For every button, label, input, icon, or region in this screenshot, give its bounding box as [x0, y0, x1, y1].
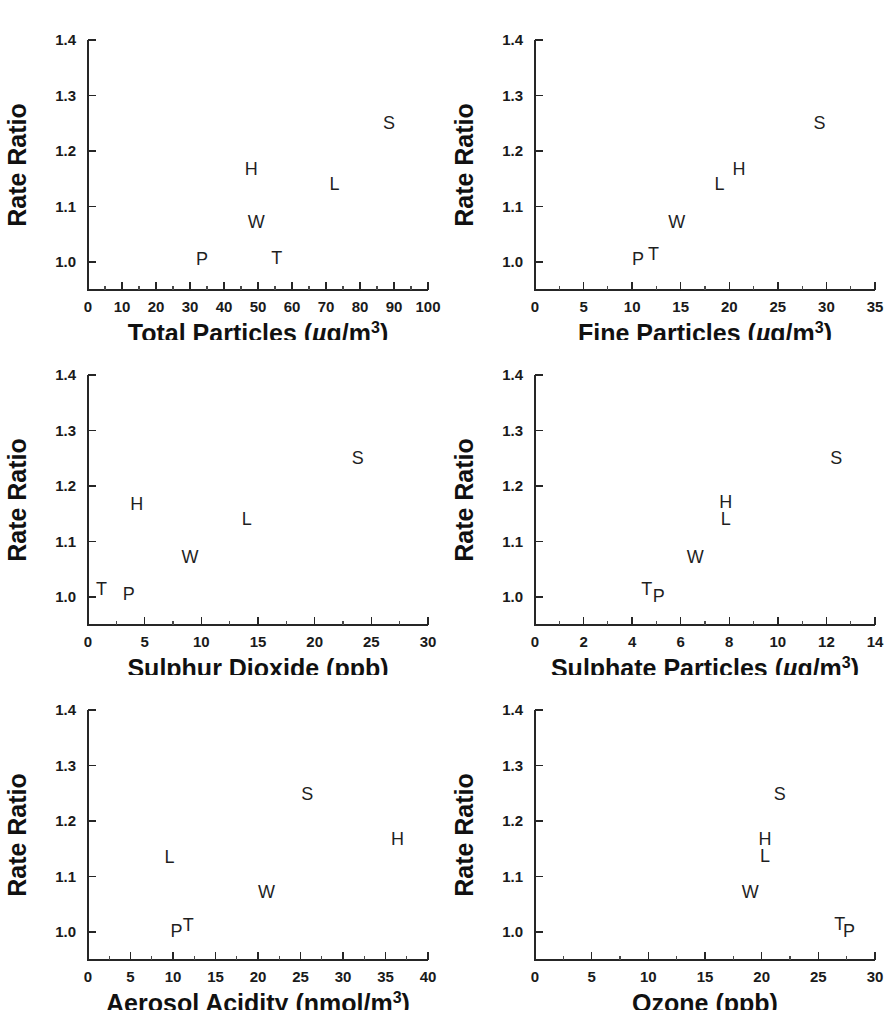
data-point-marker-H: H — [759, 829, 772, 849]
x-tick-label: 15 — [697, 968, 714, 985]
x-tick-label: 40 — [216, 298, 233, 315]
x-tick-label: 0 — [531, 298, 539, 315]
x-tick-label: 20 — [250, 968, 267, 985]
x-axis-title: Ozone (ppb) — [632, 989, 778, 1010]
x-tick-label: 100 — [415, 298, 440, 315]
x-tick-label: 60 — [284, 298, 301, 315]
y-tick-label: 1.1 — [502, 198, 523, 215]
y-tick-label: 1.1 — [55, 533, 76, 550]
scatter-panel-3: 0510152025301.01.11.21.31.4TPWHLSRate Ra… — [0, 335, 446, 675]
data-point-marker-T: T — [271, 248, 282, 268]
x-tick-label: 0 — [531, 968, 539, 985]
x-tick-label: 50 — [250, 298, 267, 315]
data-point-marker-W: W — [248, 212, 265, 232]
axis-spine — [88, 40, 428, 290]
scatter-panel-5: 05101520253035401.01.11.21.31.4PTLWSHRat… — [0, 670, 446, 1010]
data-point-marker-H: H — [719, 492, 732, 512]
y-tick-label: 1.0 — [502, 253, 523, 270]
data-point-marker-L: L — [165, 847, 175, 867]
data-point-marker-L: L — [715, 174, 725, 194]
x-tick-label: 14 — [867, 633, 884, 650]
x-tick-label: 0 — [84, 968, 92, 985]
data-point-marker-S: S — [830, 448, 842, 468]
y-tick-label: 1.2 — [502, 477, 523, 494]
x-tick-label: 15 — [250, 633, 267, 650]
x-tick-label: 0 — [531, 633, 539, 650]
x-tick-label: 35 — [377, 968, 394, 985]
x-tick-label: 80 — [352, 298, 369, 315]
y-tick-label: 1.0 — [55, 588, 76, 605]
x-tick-label: 10 — [165, 968, 182, 985]
y-tick-label: 1.4 — [502, 31, 524, 48]
data-point-marker-S: S — [774, 784, 786, 804]
y-axis-title: Rate Ratio — [3, 103, 31, 227]
x-tick-label: 4 — [628, 633, 637, 650]
y-tick-label: 1.0 — [502, 588, 523, 605]
scatter-panel-1: 01020304050607080901001.01.11.21.31.4PTW… — [0, 0, 446, 340]
data-point-marker-T: T — [648, 244, 659, 264]
data-point-marker-P: P — [123, 584, 135, 604]
y-axis-title: Rate Ratio — [450, 103, 478, 227]
data-point-marker-S: S — [301, 784, 313, 804]
data-point-marker-H: H — [391, 829, 404, 849]
data-point-marker-H: H — [130, 494, 143, 514]
data-point-marker-T: T — [96, 579, 107, 599]
y-tick-label: 1.1 — [502, 868, 523, 885]
y-tick-label: 1.2 — [55, 477, 76, 494]
data-point-marker-W: W — [687, 547, 704, 567]
y-tick-label: 1.1 — [55, 868, 76, 885]
x-tick-label: 30 — [867, 968, 884, 985]
data-point-marker-T: T — [641, 579, 652, 599]
x-tick-label: 15 — [207, 968, 224, 985]
x-axis-title: Aerosol Acidity (nmol/m3) — [106, 989, 410, 1010]
x-tick-label: 10 — [624, 298, 641, 315]
y-tick-label: 1.2 — [55, 812, 76, 829]
x-tick-label: 20 — [148, 298, 165, 315]
x-tick-label: 25 — [363, 633, 380, 650]
x-tick-label: 30 — [420, 633, 437, 650]
x-tick-label: 5 — [587, 968, 595, 985]
x-tick-label: 0 — [84, 298, 92, 315]
x-tick-label: 6 — [677, 633, 685, 650]
x-tick-label: 30 — [818, 298, 835, 315]
data-point-marker-P: P — [196, 249, 208, 269]
x-tick-label: 20 — [306, 633, 323, 650]
axis-spine — [535, 375, 875, 625]
data-point-marker-S: S — [814, 113, 826, 133]
x-tick-label: 25 — [770, 298, 787, 315]
y-tick-label: 1.3 — [502, 422, 523, 439]
x-tick-label: 30 — [335, 968, 352, 985]
axis-spine — [88, 710, 428, 960]
y-tick-label: 1.0 — [502, 923, 523, 940]
x-tick-label: 10 — [640, 968, 657, 985]
x-tick-label: 25 — [292, 968, 309, 985]
data-point-marker-L: L — [721, 509, 731, 529]
x-tick-label: 12 — [818, 633, 835, 650]
y-tick-label: 1.3 — [55, 422, 76, 439]
x-tick-label: 10 — [193, 633, 210, 650]
y-tick-label: 1.4 — [55, 366, 77, 383]
data-point-marker-P: P — [170, 921, 182, 941]
y-tick-label: 1.4 — [55, 701, 77, 718]
axis-spine — [535, 40, 875, 290]
y-tick-label: 1.3 — [55, 757, 76, 774]
y-tick-label: 1.0 — [55, 253, 76, 270]
scatter-panel-2: 051015202530351.01.11.21.31.4PTWLHSRate … — [447, 0, 893, 340]
x-tick-label: 70 — [318, 298, 335, 315]
data-point-marker-S: S — [352, 448, 364, 468]
data-point-marker-P: P — [653, 586, 665, 606]
x-tick-label: 20 — [721, 298, 738, 315]
y-tick-label: 1.3 — [502, 87, 523, 104]
data-point-marker-H: H — [245, 159, 258, 179]
x-tick-label: 2 — [579, 633, 587, 650]
data-point-marker-W: W — [742, 882, 759, 902]
x-tick-label: 5 — [126, 968, 134, 985]
x-tick-label: 35 — [867, 298, 884, 315]
figure-panel-grid: 01020304050607080901001.01.11.21.31.4PTW… — [0, 0, 893, 1020]
y-axis-title: Rate Ratio — [3, 773, 31, 897]
y-tick-label: 1.4 — [502, 701, 524, 718]
x-tick-label: 25 — [810, 968, 827, 985]
scatter-panel-6: 0510152025301.01.11.21.31.4WLHSTPRate Ra… — [447, 670, 893, 1010]
x-tick-label: 40 — [420, 968, 437, 985]
y-tick-label: 1.4 — [55, 31, 77, 48]
